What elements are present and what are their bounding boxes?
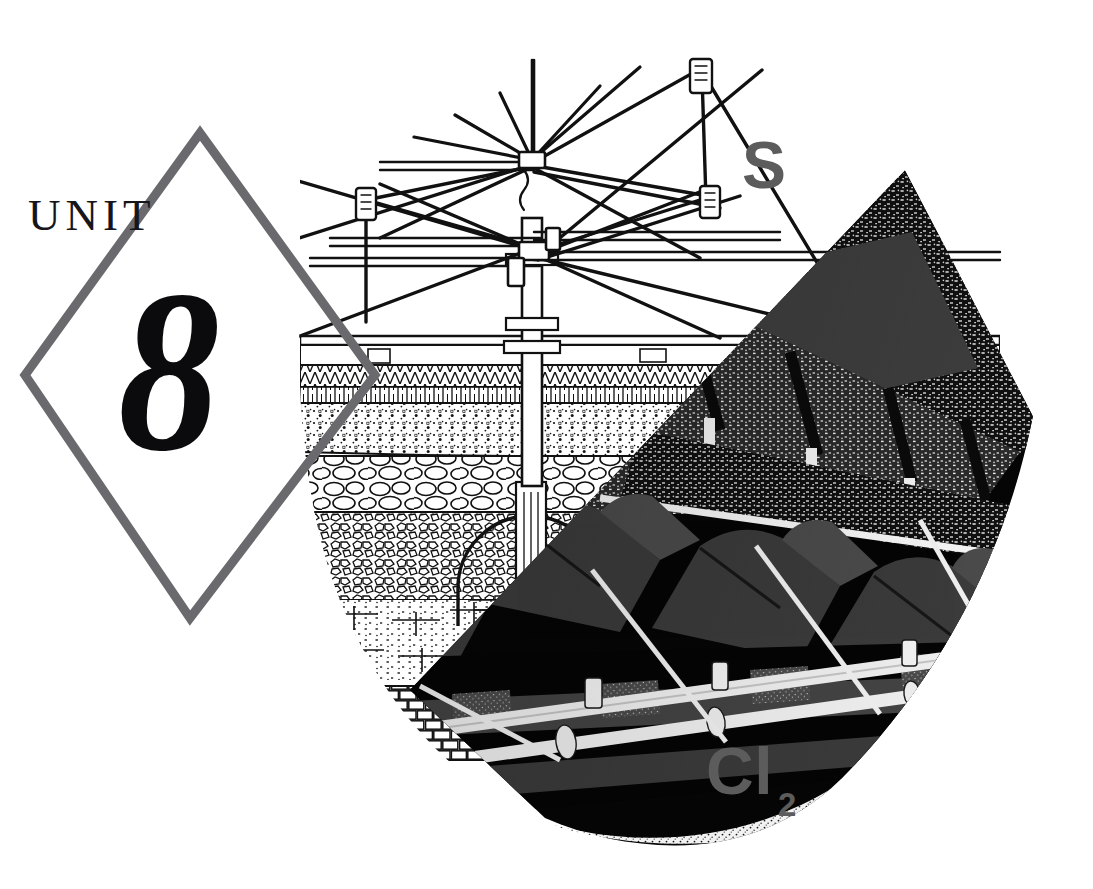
unit-word-label: UNIT [28,193,155,238]
chlorine-label: Cl2 [706,738,792,804]
chlorine-subscript: 2 [778,788,797,821]
sulfur-label: S [742,132,787,198]
unit-opener-page: UNIT 8 S Cl2 [0,0,1093,889]
unit-number-label: 8 [118,255,220,487]
chlorine-symbol: Cl [706,734,773,808]
